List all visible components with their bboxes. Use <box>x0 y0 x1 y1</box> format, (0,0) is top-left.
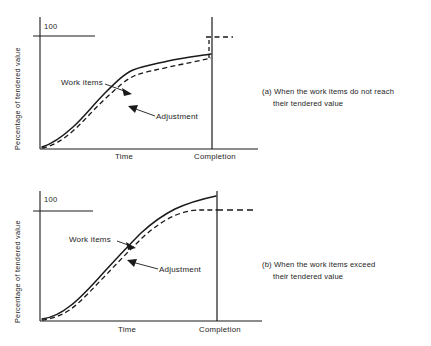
series-adjustment-a <box>42 58 211 148</box>
figure-s-curves: Percentage of tendered value 100 Work it… <box>0 0 431 346</box>
plot-b <box>0 173 431 346</box>
arrowhead-adjustment-b <box>127 259 137 267</box>
chart-panel-a: Percentage of tendered value 100 Work it… <box>0 0 431 173</box>
arrowhead-adjustment-a <box>128 105 138 113</box>
chart-panel-b: Percentage of tendered value 100 Work it… <box>0 173 431 346</box>
plot-a <box>0 0 431 173</box>
arrowhead-work-items-a <box>122 88 132 96</box>
series-work-items-b <box>42 196 216 319</box>
leader-adjustment-b <box>132 262 158 269</box>
series-work-items-a <box>42 54 211 147</box>
series-adjustment-b <box>42 210 217 320</box>
